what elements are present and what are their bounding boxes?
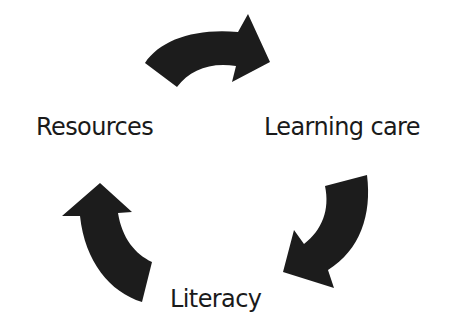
arrow-literacy-to-resources-icon [62,183,152,302]
cycle-diagram: Resources Learning care Literacy [0,0,464,336]
node-learning-care-label: Learning care [264,115,420,139]
node-resources-label: Resources [36,115,153,139]
arrow-resources-to-learning-care-icon [145,14,270,87]
arrow-learning-care-to-literacy-icon [283,175,368,288]
node-literacy-label: Literacy [170,287,261,311]
